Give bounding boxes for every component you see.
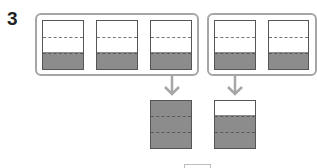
- arrow-down-icon: [225, 74, 245, 98]
- result-bar-three-thirds: [150, 100, 192, 149]
- fraction-bar-one-third: [268, 20, 309, 70]
- problem-number: 3: [7, 9, 18, 28]
- answer-box[interactable]: [184, 164, 211, 168]
- fraction-bar-one-third: [96, 20, 138, 70]
- fraction-bar-one-third: [214, 20, 256, 70]
- fraction-bar-one-third: [150, 20, 192, 70]
- arrow-down-icon: [162, 74, 182, 98]
- fraction-bar-one-third: [42, 20, 84, 70]
- result-bar-two-thirds: [214, 100, 256, 149]
